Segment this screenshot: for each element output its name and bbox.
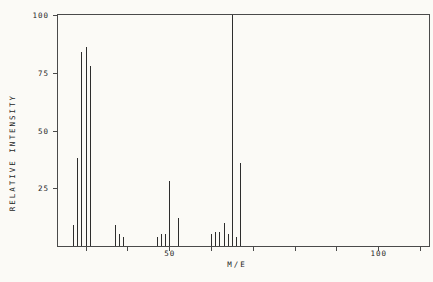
peak-mz-48	[161, 234, 162, 246]
peak-mz-62	[219, 232, 220, 246]
plot-area: 50100100755025	[57, 14, 430, 247]
y-axis-tick-100	[53, 15, 58, 16]
x-axis-title: M/E	[227, 260, 247, 269]
y-axis-label-75: 75	[38, 68, 49, 77]
y-axis-label-25: 25	[38, 184, 49, 193]
mass-spectrum-page: RELATIVE INTENSITY 50100100755025 M/E	[0, 0, 433, 282]
x-axis-tick-60	[211, 246, 212, 251]
y-axis-tick-75	[53, 73, 58, 74]
peak-mz-66	[236, 237, 237, 246]
y-axis-title-text: RELATIVE INTENSITY	[8, 94, 17, 211]
x-axis-tick-40	[127, 246, 128, 251]
x-axis-label-100: 100	[371, 249, 388, 258]
peak-mz-67	[240, 163, 241, 246]
x-axis-tick-70	[253, 246, 254, 251]
peak-mz-31	[90, 66, 91, 246]
peak-mz-28	[77, 158, 78, 246]
y-axis-label-100: 100	[32, 11, 49, 20]
peak-mz-63	[224, 223, 225, 246]
peak-mz-47	[157, 237, 158, 246]
peak-mz-50	[169, 181, 170, 246]
x-axis-tick-90	[336, 246, 337, 251]
x-axis-tick-80	[295, 246, 296, 251]
peak-mz-29	[81, 52, 82, 246]
y-axis-tick-25	[53, 188, 58, 189]
peak-mz-37	[115, 225, 116, 246]
x-axis-label-50: 50	[164, 249, 175, 258]
peak-mz-38	[119, 234, 120, 246]
x-axis-tick-30	[86, 246, 87, 251]
y-axis-tick-50	[53, 131, 58, 132]
peak-mz-49	[165, 234, 166, 246]
y-axis-label-50: 50	[38, 126, 49, 135]
x-axis-tick-110	[420, 246, 421, 251]
peak-mz-39	[123, 237, 124, 246]
peak-mz-27	[73, 225, 74, 246]
peak-mz-60	[211, 234, 212, 246]
peak-mz-52	[178, 218, 179, 246]
peak-mz-30	[86, 47, 87, 246]
peak-mz-65	[232, 15, 233, 246]
peak-mz-61	[215, 232, 216, 246]
y-axis-title: RELATIVE INTENSITY	[8, 55, 17, 250]
peak-mz-64	[228, 234, 229, 246]
